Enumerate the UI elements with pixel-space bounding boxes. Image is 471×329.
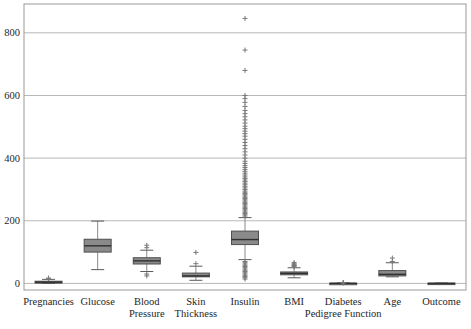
x-axis-label-glucose: Glucose — [80, 296, 115, 307]
x-axis-label-blood-pressure-line2: Pressure — [129, 308, 165, 319]
x-axis-label-bmi: BMI — [284, 296, 304, 307]
y-tick-label-600: 600 — [4, 90, 20, 101]
x-axis-label-outcome: Outcome — [422, 296, 461, 307]
x-axis-label-age: Age — [384, 296, 402, 307]
x-axis-label-diabetes-pedigree-function-line2: Pedigree Function — [305, 308, 382, 319]
x-axis-label-insulin: Insulin — [230, 296, 260, 307]
y-tick-label-0: 0 — [15, 278, 20, 289]
x-axis-label-skin-thickness-line2: Thickness — [175, 308, 218, 319]
box-age — [379, 271, 406, 276]
y-tick-label-200: 200 — [4, 215, 20, 226]
box-insulin — [232, 231, 259, 244]
x-axis-label-diabetes-pedigree-function: Diabetes — [325, 296, 362, 307]
y-tick-label-400: 400 — [4, 153, 20, 164]
boxplot-figure: 0200400600800PregnanciesGlucoseBloodPres… — [0, 0, 471, 329]
y-tick-label-800: 800 — [4, 27, 20, 38]
x-axis-label-pregnancies: Pregnancies — [23, 296, 74, 307]
boxplot-canvas: 0200400600800PregnanciesGlucoseBloodPres… — [0, 0, 471, 329]
x-axis-label-skin-thickness: Skin — [186, 296, 206, 307]
x-axis-label-blood-pressure: Blood — [134, 296, 160, 307]
